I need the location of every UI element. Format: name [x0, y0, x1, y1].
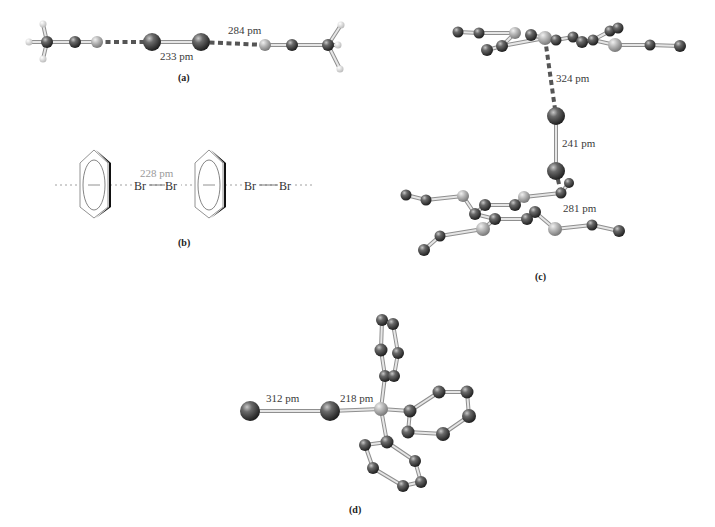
atom-s	[538, 31, 552, 45]
atom-c	[375, 344, 388, 357]
atom-c	[436, 427, 450, 441]
atom-c	[521, 213, 533, 225]
panel-a: 233 pm 284 pm (a)	[26, 21, 345, 85]
atom-c	[435, 231, 446, 242]
atom-c	[556, 188, 567, 199]
atom-s	[457, 190, 469, 202]
atom-c	[388, 370, 400, 382]
atom-c	[381, 436, 394, 449]
distance-label-233: 233 pm	[160, 50, 194, 62]
atom-s	[476, 222, 490, 236]
atom-c	[496, 40, 508, 52]
atom-c	[489, 213, 501, 225]
panel-c-bonds	[406, 28, 680, 250]
panel-label-d: (d)	[349, 504, 361, 516]
atom-s	[548, 222, 562, 236]
panel-label-b: (b)	[178, 237, 190, 249]
atom-c	[418, 244, 430, 256]
atom-c	[359, 439, 371, 451]
atom-c	[402, 426, 415, 439]
atom-c	[409, 455, 421, 467]
atom-c	[397, 480, 409, 492]
atom-br	[547, 162, 565, 180]
atom-br	[320, 401, 340, 421]
atom-h	[26, 39, 33, 46]
atom-c	[453, 27, 464, 38]
atom-n	[259, 39, 271, 51]
atom-c	[576, 36, 588, 48]
atom-c	[674, 40, 686, 52]
figure-canvas: 233 pm 284 pm (a) 228 pm Br Br Br Br	[0, 0, 715, 527]
atom-n	[91, 36, 103, 48]
panel-b: 228 pm Br Br Br Br (b)	[55, 150, 315, 249]
atom-c	[564, 178, 574, 188]
halogen-bond	[201, 42, 265, 45]
atom-c	[392, 347, 404, 359]
atom-c	[421, 195, 432, 206]
atom-s	[608, 38, 622, 52]
atom-c	[387, 318, 399, 330]
atom-label-br-1: Br	[134, 179, 146, 193]
panel-label-a: (a)	[178, 72, 190, 84]
atom-c	[525, 29, 537, 41]
atom-c	[474, 28, 485, 39]
atom-s	[518, 191, 530, 203]
atom-c	[404, 405, 417, 418]
atom-c	[415, 476, 427, 488]
atom-c	[613, 225, 625, 237]
atom-label-br-4: Br	[279, 179, 291, 193]
distance-label-312: 312 pm	[266, 392, 300, 404]
panel-d: 312 pm 218 pm (d)	[240, 314, 476, 516]
distance-label-284: 284 pm	[228, 24, 262, 36]
distance-label-281: 281 pm	[563, 202, 597, 214]
atom-h	[40, 56, 47, 63]
atom-c	[286, 39, 298, 51]
atom-c	[613, 23, 624, 34]
benzene-ring-1	[80, 150, 111, 218]
atom-label-br-2: Br	[165, 179, 177, 193]
atom-c	[461, 386, 474, 399]
atom-c	[645, 40, 656, 51]
distance-label-241: 241 pm	[562, 137, 596, 149]
atom-c	[551, 35, 562, 46]
atom-h	[335, 42, 342, 49]
panel-label-c: (c)	[535, 271, 546, 283]
atom-br	[240, 401, 260, 421]
atom-c	[469, 208, 481, 220]
atom-c	[588, 35, 599, 46]
atom-h	[338, 22, 345, 29]
atom-c	[433, 386, 446, 399]
atom-c	[509, 199, 521, 211]
halogen-bond	[545, 38, 556, 116]
atom-c	[41, 36, 53, 48]
atom-br	[547, 107, 565, 125]
distance-label-324: 324 pm	[556, 72, 590, 84]
panel-a-atoms	[26, 21, 345, 73]
atom-h	[337, 66, 344, 73]
atom-c	[481, 44, 493, 56]
atom-c	[322, 39, 334, 51]
atom-c	[376, 314, 388, 326]
atom-h	[40, 21, 47, 28]
atom-c	[462, 409, 476, 423]
atom-s	[509, 27, 521, 39]
distance-label-218: 218 pm	[340, 392, 374, 404]
benzene-ring-2	[195, 150, 226, 218]
atom-c	[587, 220, 598, 231]
atom-label-br-3: Br	[244, 179, 256, 193]
atom-c	[69, 36, 81, 48]
panel-c: 324 pm 241 pm 281 pm (c)	[401, 23, 687, 284]
atom-c	[479, 199, 491, 211]
atom-c	[367, 462, 379, 474]
atom-br	[143, 33, 161, 51]
atom-br	[192, 33, 210, 51]
atom-c	[401, 190, 412, 201]
atom-p	[374, 402, 388, 416]
distance-label-228: 228 pm	[140, 167, 174, 179]
